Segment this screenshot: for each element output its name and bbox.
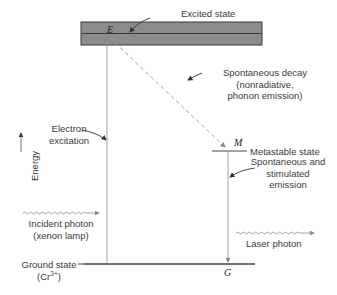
- laser-photon-label: Laser photon: [246, 238, 301, 250]
- metastable-symbol: M: [234, 137, 242, 148]
- energy-axis-label: Energy: [29, 151, 40, 181]
- laser-photon-wave: [236, 232, 299, 234]
- ground-symbol: G: [224, 267, 231, 278]
- excitation-label: Electron excitation: [40, 123, 98, 146]
- excited-state-label: Excited state: [181, 8, 235, 20]
- emission-label: Spontaneous and stimulated emission: [246, 156, 330, 191]
- incident-photon-label: Incident photon (xenon lamp): [20, 218, 102, 241]
- ground-state-label: Ground state (Cr3+): [18, 259, 80, 282]
- incident-photon-wave: [23, 212, 86, 214]
- ground-state-ion: (Cr3+): [18, 271, 80, 283]
- laser-energy-diagram: E M G Excited state Metastable state Spo…: [0, 0, 337, 295]
- decay-callout: [188, 73, 202, 80]
- decay-label: Spontaneous decay (nonradiative, phonon …: [205, 67, 325, 102]
- excited-symbol: E: [107, 24, 113, 35]
